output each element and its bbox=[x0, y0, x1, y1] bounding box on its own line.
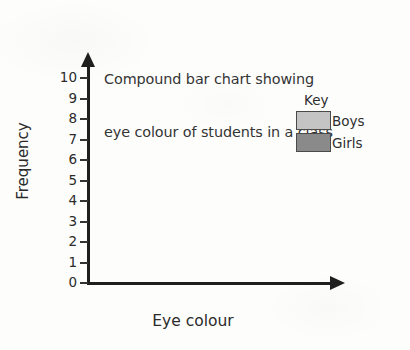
y-axis-tick bbox=[80, 118, 88, 120]
y-axis-tick-label: 3 bbox=[50, 215, 77, 229]
y-axis-tick-label-text: 8 bbox=[50, 112, 77, 126]
legend-label-boys: Boys bbox=[332, 113, 365, 129]
y-axis-tick-label: 4 bbox=[50, 194, 77, 208]
chart-title-line-1: Compound bar chart showing bbox=[104, 71, 404, 89]
y-axis-tick bbox=[80, 221, 88, 223]
y-axis-tick-label-text: 1 bbox=[50, 256, 77, 270]
y-axis-tick-label: 1 bbox=[50, 256, 77, 270]
y-axis-tick-label-text: 4 bbox=[50, 194, 77, 208]
y-axis-title: Frequency bbox=[14, 106, 32, 216]
y-axis-tick bbox=[80, 98, 88, 100]
legend: Key BoysGirls bbox=[296, 92, 408, 155]
legend-swatch-boys bbox=[296, 111, 331, 130]
y-axis-tick-label-text: 7 bbox=[50, 133, 77, 147]
y-axis-tick-label: 9 bbox=[50, 92, 77, 106]
y-axis-tick-label: 2 bbox=[50, 235, 77, 249]
y-axis-tick-label-text: 9 bbox=[50, 92, 77, 106]
legend-swatch-girls bbox=[296, 133, 331, 152]
y-axis-tick-label-text: 6 bbox=[50, 153, 77, 167]
legend-label-girls: Girls bbox=[332, 135, 363, 151]
y-axis-tick bbox=[80, 262, 88, 264]
y-axis-tick bbox=[80, 139, 88, 141]
y-axis-tick-label-text: 5 bbox=[50, 174, 77, 188]
y-axis-arrow-icon bbox=[81, 52, 95, 67]
x-axis-arrow-icon bbox=[330, 276, 345, 290]
legend-title: Key bbox=[304, 92, 408, 108]
legend-entry: Boys bbox=[296, 111, 408, 130]
y-axis-tick-label: 5 bbox=[50, 174, 77, 188]
y-axis-tick-label: 6 bbox=[50, 153, 77, 167]
chart-page: Compound bar chart showing eye colour of… bbox=[0, 0, 410, 350]
y-axis-tick bbox=[80, 241, 88, 243]
y-axis-tick bbox=[80, 180, 88, 182]
legend-entries: BoysGirls bbox=[296, 111, 408, 152]
x-axis-title: Eye colour bbox=[118, 312, 268, 330]
y-axis-tick-label: 0 bbox=[50, 276, 77, 290]
y-axis-tick-label-text: 0 bbox=[50, 276, 77, 290]
y-axis-tick bbox=[80, 159, 88, 161]
y-axis-tick bbox=[80, 200, 88, 202]
x-axis-line bbox=[87, 282, 332, 285]
y-axis-tick-label-text: 10 bbox=[50, 71, 77, 85]
y-axis-tick-label: 7 bbox=[50, 133, 77, 147]
y-axis-tick-label-text: 3 bbox=[50, 215, 77, 229]
y-axis-tick bbox=[80, 282, 88, 284]
y-axis-tick-label: 8 bbox=[50, 112, 77, 126]
y-axis-tick bbox=[80, 77, 88, 79]
y-axis-tick-label-text: 2 bbox=[50, 235, 77, 249]
legend-entry: Girls bbox=[296, 133, 408, 152]
y-axis-tick-label: 10 bbox=[50, 71, 77, 85]
